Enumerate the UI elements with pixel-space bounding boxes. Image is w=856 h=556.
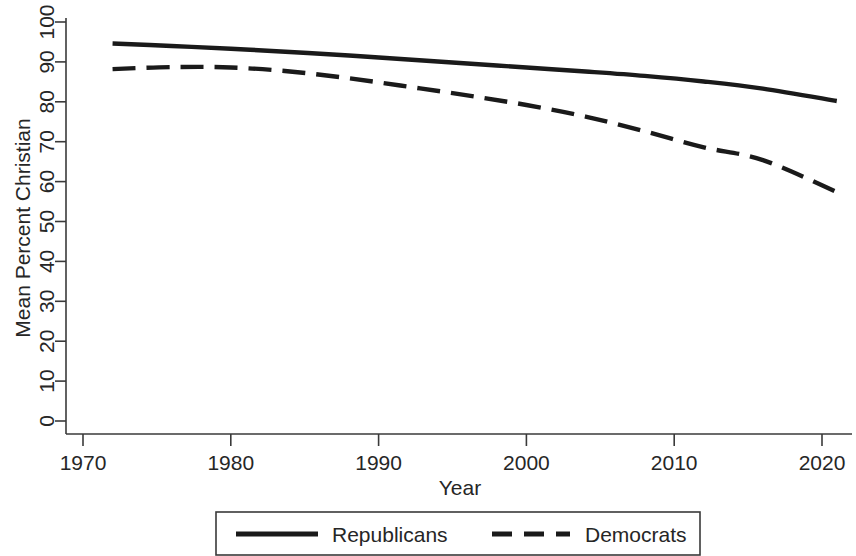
x-tick-label: 1970	[60, 451, 107, 474]
series-line-republicans	[113, 44, 837, 101]
line-chart: 0102030405060708090100 19701980199020002…	[0, 0, 856, 556]
y-tick-label: 100	[35, 4, 58, 39]
y-tick-label: 30	[35, 290, 58, 313]
y-tick-label: 70	[35, 130, 58, 153]
legend-label-republicans: Republicans	[332, 523, 448, 546]
legend: Republicans Democrats	[216, 512, 700, 555]
x-axis-title: Year	[439, 476, 481, 499]
y-tick-label: 0	[35, 415, 58, 427]
y-axis-ticks: 0102030405060708090100	[35, 4, 66, 426]
x-tick-label: 2000	[503, 451, 550, 474]
x-tick-label: 2020	[799, 451, 846, 474]
y-tick-label: 60	[35, 170, 58, 193]
x-axis-ticks: 197019801990200020102020	[60, 434, 846, 474]
chart-figure: 0102030405060708090100 19701980199020002…	[0, 0, 856, 556]
x-tick-label: 1980	[207, 451, 254, 474]
legend-label-democrats: Democrats	[585, 523, 687, 546]
y-tick-label: 50	[35, 210, 58, 233]
y-tick-label: 10	[35, 369, 58, 392]
y-axis-title: Mean Percent Christian	[11, 118, 34, 337]
y-tick-label: 90	[35, 50, 58, 73]
x-tick-label: 1990	[355, 451, 402, 474]
y-tick-label: 20	[35, 330, 58, 353]
y-tick-label: 40	[35, 250, 58, 273]
x-tick-label: 2010	[651, 451, 698, 474]
y-tick-label: 80	[35, 90, 58, 113]
series-group	[113, 44, 837, 192]
